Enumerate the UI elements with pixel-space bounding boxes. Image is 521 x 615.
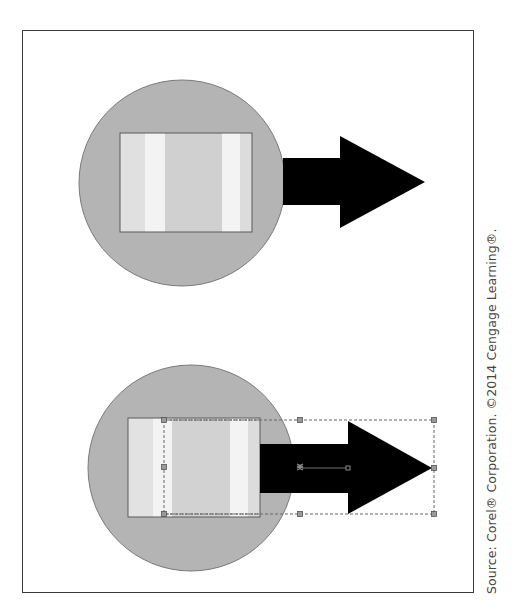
resize-handle-bottom-right[interactable] [432,512,437,517]
striped-rectangle [120,133,252,232]
resize-handle-bottom-left[interactable] [162,512,167,517]
source-credit: Source: Corel® Corporation. ©2014 Cengag… [484,228,499,594]
striped-rectangle [128,418,260,517]
credit-container: Source: Corel® Corporation. ©2014 Cengag… [481,212,501,594]
resize-handle-top-middle[interactable] [298,418,303,423]
anchor-icon [297,464,303,470]
panel-before [79,80,425,286]
resize-handle-top-left[interactable] [162,418,167,423]
resize-handle-bottom-middle[interactable] [298,512,303,517]
resize-handle-top-right[interactable] [432,418,437,423]
arrow-shape [283,136,425,228]
resize-handle-middle-right[interactable] [432,466,437,471]
diagram-canvas [0,0,521,615]
panel-after [88,365,437,571]
resize-handle-middle-left[interactable] [162,465,167,470]
